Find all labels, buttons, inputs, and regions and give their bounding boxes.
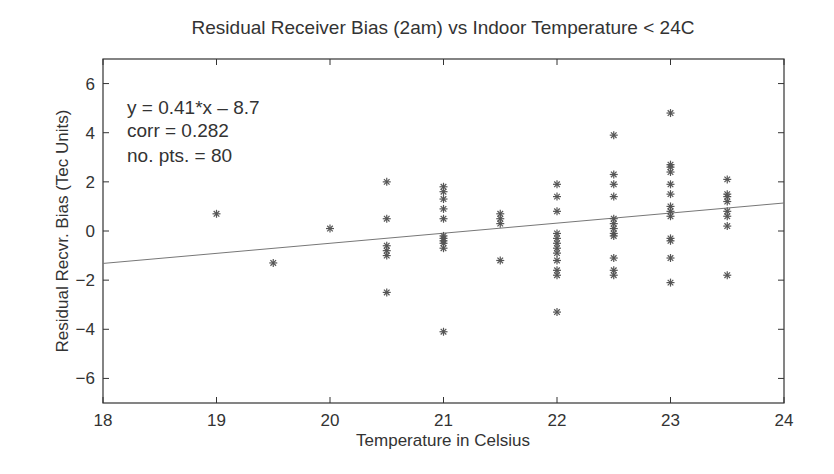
x-tick-label: 24 bbox=[775, 411, 794, 430]
data-point-asterisk-icon bbox=[667, 190, 675, 198]
annotation-text: y = 0.41*x – 8.7 bbox=[127, 97, 260, 118]
data-point-asterisk-icon bbox=[667, 212, 675, 220]
y-tick-label: −4 bbox=[76, 320, 95, 339]
data-point-asterisk-icon bbox=[667, 109, 675, 117]
data-point-asterisk-icon bbox=[440, 215, 448, 223]
data-point-asterisk-icon bbox=[269, 259, 277, 267]
data-point-asterisk-icon bbox=[610, 254, 618, 262]
data-point-asterisk-icon bbox=[496, 256, 504, 264]
data-point-asterisk-icon bbox=[553, 271, 561, 279]
data-point-asterisk-icon bbox=[723, 198, 731, 206]
data-point-asterisk-icon bbox=[610, 170, 618, 178]
scatter-chart: Residual Receiver Bias (2am) vs Indoor T… bbox=[0, 0, 834, 474]
data-point-asterisk-icon bbox=[667, 279, 675, 287]
data-point-asterisk-icon bbox=[440, 195, 448, 203]
x-tick-label: 19 bbox=[207, 411, 226, 430]
data-point-asterisk-icon bbox=[440, 244, 448, 252]
x-tick-label: 23 bbox=[661, 411, 680, 430]
y-tick-label: 4 bbox=[86, 124, 95, 143]
data-point-asterisk-icon bbox=[667, 180, 675, 188]
data-point-asterisk-icon bbox=[326, 225, 334, 233]
data-point-asterisk-icon bbox=[383, 215, 391, 223]
data-point-asterisk-icon bbox=[667, 237, 675, 245]
y-axis-label: Residual Recvr. Bias (Tec Units) bbox=[53, 110, 72, 353]
chart-title: Residual Receiver Bias (2am) vs Indoor T… bbox=[192, 17, 695, 38]
y-tick-label: −6 bbox=[76, 369, 95, 388]
data-point-asterisk-icon bbox=[553, 256, 561, 264]
data-point-asterisk-icon bbox=[440, 188, 448, 196]
fit-annotations: y = 0.41*x – 8.7corr = 0.282no. pts. = 8… bbox=[127, 97, 260, 166]
data-point-asterisk-icon bbox=[553, 193, 561, 201]
data-point-asterisk-icon bbox=[383, 252, 391, 260]
x-tick-label: 20 bbox=[321, 411, 340, 430]
data-point-asterisk-icon bbox=[610, 131, 618, 139]
data-point-asterisk-icon bbox=[610, 193, 618, 201]
x-tick-label: 22 bbox=[548, 411, 567, 430]
x-axis-label: Temperature in Celsius bbox=[356, 431, 530, 450]
data-point-asterisk-icon bbox=[723, 222, 731, 230]
data-point-asterisk-icon bbox=[610, 271, 618, 279]
annotation-text: corr = 0.282 bbox=[127, 120, 229, 141]
data-point-asterisk-icon bbox=[496, 220, 504, 228]
data-point-asterisk-icon bbox=[723, 175, 731, 183]
data-point-asterisk-icon bbox=[610, 180, 618, 188]
data-point-asterisk-icon bbox=[383, 288, 391, 296]
data-point-asterisk-icon bbox=[553, 249, 561, 257]
data-point-asterisk-icon bbox=[723, 212, 731, 220]
data-point-asterisk-icon bbox=[440, 205, 448, 213]
y-tick-label: 0 bbox=[86, 222, 95, 241]
y-tick-label: 6 bbox=[86, 75, 95, 94]
data-point-asterisk-icon bbox=[553, 207, 561, 215]
data-point-asterisk-icon bbox=[440, 328, 448, 336]
data-point-asterisk-icon bbox=[610, 232, 618, 240]
data-point-asterisk-icon bbox=[723, 271, 731, 279]
x-tick-label: 18 bbox=[94, 411, 113, 430]
data-point-asterisk-icon bbox=[383, 178, 391, 186]
data-point-asterisk-icon bbox=[213, 210, 221, 218]
data-point-asterisk-icon bbox=[553, 308, 561, 316]
annotation-text: no. pts. = 80 bbox=[127, 145, 232, 166]
x-tick-label: 21 bbox=[434, 411, 453, 430]
data-point-asterisk-icon bbox=[667, 254, 675, 262]
data-point-asterisk-icon bbox=[553, 180, 561, 188]
y-tick-label: 2 bbox=[86, 173, 95, 192]
y-tick-label: −2 bbox=[76, 271, 95, 290]
